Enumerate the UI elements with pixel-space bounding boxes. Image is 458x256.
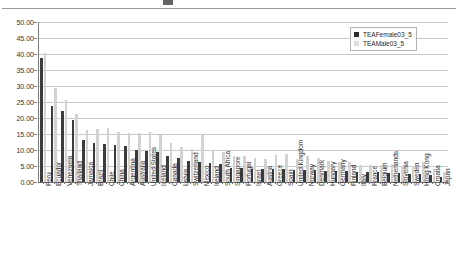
x-axis-tick-label: Portugal	[246, 162, 253, 186]
bar-group	[91, 22, 102, 182]
y-axis-tick-mark	[34, 150, 37, 151]
y-axis-tick-mark	[34, 118, 37, 119]
y-axis-tick-mark	[34, 70, 37, 71]
x-axis-tick-label: Mexico	[204, 165, 211, 186]
x-axis-tick-label: Hungary	[330, 161, 337, 186]
x-axis-tick-label: Finland	[351, 165, 358, 186]
y-axis-tick-label: 45.00	[0, 35, 34, 42]
y-axis-tick-mark	[34, 54, 37, 55]
y-axis-tick-label: 0.00	[0, 179, 34, 186]
x-axis-tick-label: Belgium	[382, 163, 389, 186]
x-axis-tick-label: Norway	[309, 164, 316, 186]
x-axis-tick-label: Spain	[288, 169, 295, 186]
bar-male	[44, 53, 47, 182]
x-axis-tick-label: Ecuador	[56, 162, 63, 186]
bar-group	[80, 22, 91, 182]
x-axis-tick-mark	[180, 182, 181, 184]
x-axis-tick-label: Iceland	[161, 165, 168, 186]
cropped-title-fragment	[163, 0, 173, 5]
legend-item-male: TEAMale03_5	[354, 39, 412, 48]
y-axis-tick-label: 20.00	[0, 115, 34, 122]
bar-group	[437, 22, 448, 182]
x-axis-tick-label: Germany	[340, 159, 347, 186]
y-axis-tick-label: 30.00	[0, 83, 34, 90]
x-axis-tick-label: Chile	[109, 171, 116, 186]
x-axis-tick-label: Denmark	[319, 160, 326, 186]
bar-group	[112, 22, 123, 182]
x-axis-tick-mark	[348, 182, 349, 184]
x-axis-tick-label: France	[372, 166, 379, 186]
bar-group	[311, 22, 322, 182]
x-axis-tick-mark	[264, 182, 265, 184]
bar-chart: 50.0045.0040.0035.0030.0025.0020.0015.00…	[0, 0, 458, 256]
x-axis-tick-label: Brazil	[98, 170, 105, 186]
y-axis-tick-mark	[34, 134, 37, 135]
bar-group	[248, 22, 259, 182]
x-axis-tick-mark	[306, 182, 307, 184]
bar-group	[49, 22, 60, 182]
bar-group	[269, 22, 280, 182]
x-axis-tick-label: Sweden	[414, 163, 421, 187]
bar-group	[206, 22, 217, 182]
bar-group	[38, 22, 49, 182]
x-axis-tick-label: Singapore	[235, 156, 242, 186]
x-axis-tick-label: Venezuela	[67, 156, 74, 186]
y-axis-labels: 50.0045.0040.0035.0030.0025.0020.0015.00…	[0, 22, 34, 182]
x-axis-tick-label: Hong Kong	[424, 153, 431, 186]
x-axis-tick-label: Croatia	[435, 165, 442, 186]
x-axis-tick-mark	[243, 182, 244, 184]
y-axis-tick-label: 25.00	[0, 99, 34, 106]
x-axis-tick-mark	[222, 182, 223, 184]
y-axis-tick-label: 50.00	[0, 19, 34, 26]
x-axis-tick-label: China	[119, 169, 126, 186]
x-axis-tick-label: Ireland	[214, 166, 221, 186]
y-axis-tick-label: 35.00	[0, 67, 34, 74]
x-axis-tick-label: United States	[151, 147, 158, 186]
bar-female	[40, 58, 43, 182]
y-axis-tick-mark	[34, 182, 37, 183]
legend-item-female: TEAFemale03_5	[354, 30, 412, 39]
y-axis-tick-mark	[34, 86, 37, 87]
legend-swatch-icon-male	[354, 41, 359, 46]
legend-label-female: TEAFemale03_5	[363, 31, 412, 38]
y-axis-tick-label: 5.00	[0, 163, 34, 170]
x-axis-tick-label: Italy	[361, 174, 368, 186]
x-axis-tick-label: Australia	[140, 161, 147, 186]
y-axis-tick-mark	[34, 166, 37, 167]
x-axis-tick-mark	[201, 182, 202, 184]
bar-group	[322, 22, 333, 182]
chart-legend: TEAFemale03_5 TEAMale03_5	[350, 27, 417, 51]
x-axis-labels: PeruEcuadorVenezuelaThailandJamaicaBrazi…	[38, 184, 448, 256]
bar-group	[280, 22, 291, 182]
bar-group	[175, 22, 186, 182]
x-axis-tick-label: Netherlands	[393, 151, 400, 186]
y-axis-tick-mark	[34, 22, 37, 23]
y-axis-tick-label: 40.00	[0, 51, 34, 58]
x-axis-tick-label: South Africa	[225, 151, 232, 186]
x-axis-tick-label: Japan	[445, 168, 452, 186]
bar-group	[259, 22, 270, 182]
x-axis-tick-label: Argentina	[130, 158, 137, 186]
x-axis-tick-label: Jamaica	[88, 162, 95, 186]
x-axis-tick-label: Israel	[256, 170, 263, 186]
x-axis-tick-mark	[369, 182, 370, 184]
y-axis-tick-mark	[34, 38, 37, 39]
x-axis-tick-label: Switzerland	[193, 152, 200, 186]
bar-group	[101, 22, 112, 182]
bar-group	[164, 22, 175, 182]
y-axis-tick-mark	[34, 102, 37, 103]
y-axis-tick-label: 15.00	[0, 131, 34, 138]
x-axis-tick-label: Austria	[267, 166, 274, 186]
bar-group	[332, 22, 343, 182]
x-axis-tick-label: United Kingdom	[298, 140, 305, 186]
legend-label-male: TEAMale03_5	[363, 40, 404, 47]
bar-female	[51, 106, 54, 182]
x-axis-tick-label: Latvia	[183, 169, 190, 186]
x-axis-tick-label: Canada	[172, 163, 179, 186]
y-axis-tick-label: 10.00	[0, 147, 34, 154]
x-axis-tick-label: Peru	[46, 172, 53, 186]
legend-swatch-icon-female	[354, 32, 359, 37]
x-axis-tick-label: Greece	[277, 165, 284, 186]
header-divider	[2, 8, 456, 9]
x-axis-tick-mark	[285, 182, 286, 184]
